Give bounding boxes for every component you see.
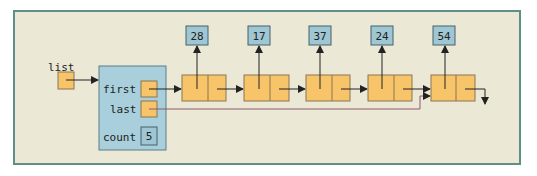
- node-5: 54: [431, 26, 485, 104]
- node-value: 28: [190, 30, 203, 43]
- node-3: 37: [306, 26, 367, 101]
- node-value: 37: [313, 30, 326, 43]
- linked-list-diagram: list first last count 5 28 17 37: [0, 0, 537, 176]
- node-value: 24: [375, 30, 389, 43]
- node-2: 17: [244, 26, 305, 101]
- first-field-label: first: [103, 83, 136, 96]
- node-value: 54: [437, 30, 451, 43]
- count-value: 5: [146, 130, 153, 143]
- node-value: 17: [252, 30, 265, 43]
- last-field-label: last: [110, 103, 137, 116]
- node-1: 28: [182, 26, 243, 101]
- count-field-label: count: [103, 131, 136, 144]
- node-4: 24: [368, 26, 430, 101]
